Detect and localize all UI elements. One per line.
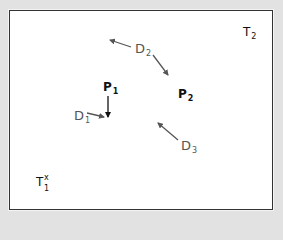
label-d2-sub: 2 bbox=[146, 49, 151, 58]
label-t1-base: T bbox=[36, 175, 43, 189]
label-d1: D1 bbox=[74, 110, 90, 124]
label-t1: Tx1 bbox=[36, 176, 43, 188]
label-t2: T2 bbox=[243, 26, 256, 40]
label-p2-base: P bbox=[178, 87, 187, 101]
label-t2-sub: 2 bbox=[251, 32, 256, 41]
arrow-d2-to-p2 bbox=[153, 55, 168, 75]
arrow-d3-up-left bbox=[158, 123, 178, 140]
label-p1-base: P bbox=[103, 80, 112, 94]
label-d3-sub: 3 bbox=[192, 146, 197, 155]
label-d3: D3 bbox=[181, 140, 197, 154]
label-d1-sub: 1 bbox=[85, 116, 90, 125]
label-t1-sub: 1 bbox=[44, 183, 49, 195]
label-t2-base: T bbox=[243, 25, 250, 39]
label-p1: P1 bbox=[103, 81, 118, 95]
label-p1-sub: 1 bbox=[113, 87, 119, 96]
label-d2: D2 bbox=[135, 43, 151, 57]
label-p2-sub: 2 bbox=[188, 94, 194, 103]
label-d3-base: D bbox=[181, 138, 191, 153]
label-d1-base: D bbox=[74, 108, 84, 123]
label-d2-base: D bbox=[135, 41, 145, 56]
arrow-d2-up-left bbox=[110, 40, 131, 47]
label-p2: P2 bbox=[178, 88, 193, 102]
